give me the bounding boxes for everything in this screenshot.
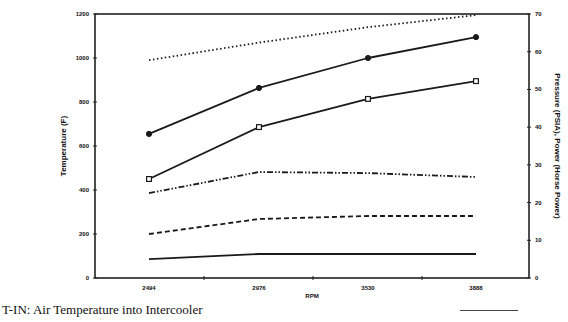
y-tick-label: 0 — [86, 275, 90, 281]
circle-marker — [256, 85, 261, 90]
y-right-tick-label: 30 — [535, 162, 542, 168]
square-marker — [366, 97, 371, 102]
y-right-tick-label: 10 — [535, 237, 542, 243]
caption: T-IN: Air Temperature into Intercooler — [2, 302, 203, 318]
series-line-dotted — [149, 15, 476, 60]
left-y-axis: 020040060080010001200 — [76, 11, 97, 281]
x-tick-label: 2494 — [142, 285, 156, 291]
x-tick-label: 2976 — [252, 285, 266, 291]
y-right-tick-label: 60 — [535, 49, 542, 55]
y-tick-label: 800 — [79, 99, 90, 105]
plot-frame — [95, 14, 529, 278]
right-axis-title: Pressure (PSIA), Power (Horse Power) — [553, 73, 562, 219]
y-right-tick-label: 0 — [535, 275, 539, 281]
y-tick-label: 1200 — [76, 11, 90, 17]
legend-line-sample — [460, 310, 518, 311]
y-tick-label: 400 — [79, 187, 90, 193]
series-line-solid-square — [149, 81, 476, 179]
y-right-tick-label: 70 — [535, 11, 542, 17]
y-right-tick-label: 50 — [535, 86, 542, 92]
y-tick-label: 200 — [79, 231, 90, 237]
circle-marker — [146, 131, 151, 136]
series-line-dash-dot — [149, 172, 476, 193]
x-axis-title: RPM — [305, 293, 318, 299]
series-line-solid-bottom — [149, 254, 476, 259]
y-right-tick-label: 40 — [535, 124, 542, 130]
plot-border — [95, 14, 529, 278]
data-series — [146, 15, 478, 259]
series-line-solid-filled-circle — [149, 37, 476, 134]
series-line-dashed — [149, 216, 476, 234]
left-axis-title: Temperature (F) — [59, 116, 68, 177]
circle-marker — [365, 55, 370, 60]
square-marker — [257, 125, 262, 130]
circle-marker — [473, 35, 478, 40]
square-marker — [147, 177, 152, 182]
line-chart: 020040060080010001200 010203040506070 24… — [0, 0, 568, 300]
y-tick-label: 1000 — [76, 55, 90, 61]
y-tick-label: 600 — [79, 143, 90, 149]
square-marker — [474, 79, 479, 84]
y-right-tick-label: 20 — [535, 200, 542, 206]
x-tick-label: 3888 — [469, 285, 483, 291]
x-tick-label: 3530 — [361, 285, 375, 291]
